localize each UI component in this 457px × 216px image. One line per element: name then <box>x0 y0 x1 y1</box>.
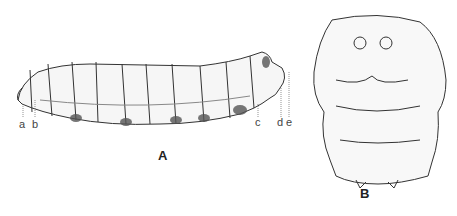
panel-label-a: A <box>158 148 167 163</box>
marker-d: d <box>277 116 283 128</box>
marker-b: b <box>32 118 38 130</box>
larva-illustration <box>0 0 457 216</box>
marker-c: c <box>255 116 261 128</box>
figure: a b c d e A B <box>0 0 457 216</box>
marker-a: a <box>19 118 25 130</box>
marker-e: e <box>286 116 292 128</box>
panel-label-b: B <box>360 186 369 201</box>
